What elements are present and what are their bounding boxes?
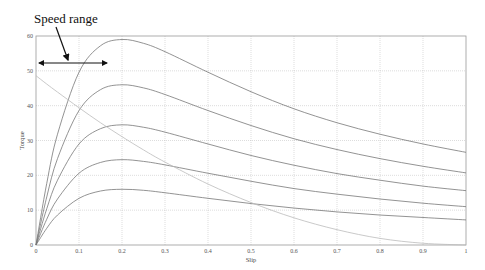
x-tick-labels: 00.10.20.30.40.50.60.70.80.91 (35, 248, 468, 254)
x-tick-label: 1 (465, 248, 468, 254)
x-tick-label: 0.6 (290, 248, 298, 254)
y-tick-label: 50 (27, 68, 33, 74)
x-tick-label: 0.1 (75, 248, 83, 254)
x-tick-label: 0.7 (333, 248, 341, 254)
y-tick-label: 10 (27, 207, 33, 213)
grid (36, 36, 466, 245)
x-tick-label: 0.3 (161, 248, 169, 254)
x-tick-label: 0.8 (376, 248, 384, 254)
x-tick-label: 0.9 (419, 248, 427, 254)
x-tick-label: 0.5 (247, 248, 255, 254)
speed-range-label: Speed range (34, 11, 98, 26)
y-tick-labels: 0102030405060 (27, 33, 33, 248)
speed-range-pointer-arrow (56, 27, 68, 60)
y-axis-label: Torque (18, 131, 25, 149)
y-tick-label: 0 (30, 242, 33, 248)
y-tick-label: 30 (27, 138, 33, 144)
torque-slip-chart: 00.10.20.30.40.50.60.70.80.91 0102030405… (0, 0, 485, 270)
y-tick-label: 20 (27, 172, 33, 178)
x-tick-label: 0.2 (118, 248, 126, 254)
x-tick-label: 0 (35, 248, 38, 254)
x-tick-label: 0.4 (204, 248, 212, 254)
x-axis-label: Slip (246, 256, 256, 263)
y-tick-label: 40 (27, 103, 33, 109)
y-tick-label: 60 (27, 33, 33, 39)
